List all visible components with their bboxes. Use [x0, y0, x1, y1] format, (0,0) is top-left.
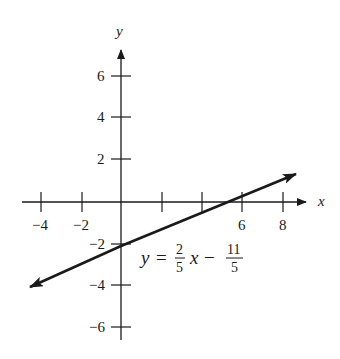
equation-label: y = 2 5 x − 11 5 [139, 242, 243, 275]
y-tick-label: 2 [97, 151, 105, 167]
plotted-line-left [30, 246, 121, 287]
svg-text:−: − [204, 247, 215, 268]
y-tick-label: −2 [89, 236, 105, 252]
y-tick-label: −6 [89, 319, 105, 335]
x-tick-label: −2 [73, 217, 89, 233]
svg-text:11: 11 [227, 242, 240, 257]
svg-text:=: = [156, 247, 167, 268]
x-axis-label: x [317, 193, 325, 209]
y-tick-label: −4 [89, 277, 105, 293]
x-tick-label: 8 [279, 217, 287, 233]
svg-text:5: 5 [176, 260, 183, 275]
x-tick-label: −4 [32, 217, 48, 233]
x-tick-label: 6 [238, 217, 246, 233]
y-tick-label: 4 [97, 109, 105, 125]
svg-text:5: 5 [231, 260, 238, 275]
y-axis-label: y [114, 23, 123, 39]
svg-text:x: x [189, 247, 199, 268]
y-tick-label: 6 [97, 68, 105, 84]
svg-text:2: 2 [176, 242, 183, 257]
plotted-line [121, 174, 296, 246]
svg-text:y: y [139, 247, 150, 268]
line-graph: x y −4 −2 6 8 6 4 2 −2 −4 −6 y = 2 5 x −… [0, 0, 340, 359]
